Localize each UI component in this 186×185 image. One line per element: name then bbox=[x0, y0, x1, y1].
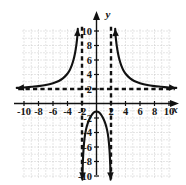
y-tick-label: -2 bbox=[83, 113, 92, 124]
y-tick-label: -6 bbox=[83, 142, 92, 153]
y-tick-label: 6 bbox=[87, 55, 92, 66]
y-tick-label: -8 bbox=[83, 156, 92, 167]
y-tick-label: -4 bbox=[83, 127, 92, 138]
x-tick-label: 8 bbox=[152, 106, 157, 117]
x-tick-label: 6 bbox=[137, 106, 142, 117]
x-tick-label: -4 bbox=[63, 106, 72, 117]
y-tick-label: 10 bbox=[82, 26, 93, 37]
x-tick-label: 2 bbox=[108, 106, 113, 117]
x-tick-label: 4 bbox=[123, 106, 129, 117]
y-tick-label: 2 bbox=[87, 84, 92, 95]
x-axis-label: x bbox=[171, 103, 178, 115]
graph-figure: -10-8-6-4-2246810108642-2-4-6-8-10 x y bbox=[0, 0, 186, 185]
figure-background bbox=[0, 0, 186, 185]
x-tick-label: -6 bbox=[49, 106, 58, 117]
coordinate-plane-svg: -10-8-6-4-2246810108642-2-4-6-8-10 x y bbox=[0, 0, 186, 185]
y-tick-label: 4 bbox=[87, 69, 93, 80]
x-tick-label: -10 bbox=[17, 106, 31, 117]
y-axis-label: y bbox=[104, 8, 111, 20]
y-tick-label: -10 bbox=[78, 171, 92, 182]
x-tick-label: -8 bbox=[34, 106, 43, 117]
y-tick-label: 8 bbox=[87, 40, 92, 51]
